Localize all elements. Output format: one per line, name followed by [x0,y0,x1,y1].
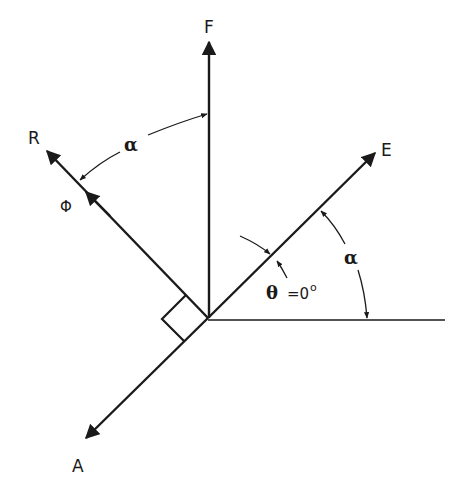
label-a: A [72,456,84,476]
vector-r-arrow [47,151,208,318]
phi-arrow [86,192,110,216]
alpha-arc-e-horizontal-lower [358,270,367,318]
right-angle-marker [162,295,186,341]
vector-diagram: F R E A Φ α α θ =0 o [0,0,460,499]
label-theta-degree: o [310,281,317,294]
label-r: R [28,128,40,148]
label-theta-value: =0 [287,285,309,303]
label-alpha-top: α [124,134,138,155]
theta-arc-lower [277,261,287,278]
label-f: F [204,17,214,37]
alpha-arc-f-r-upper [148,114,207,135]
vector-a-arrow [86,318,208,438]
alpha-arc-e-horizontal [321,211,345,244]
label-phi: Φ [60,198,72,216]
label-e: E [381,140,392,160]
label-alpha-right: α [344,247,358,268]
label-theta: θ [266,282,278,303]
alpha-arc-f-r [80,152,120,180]
theta-arc-upper [240,236,270,254]
